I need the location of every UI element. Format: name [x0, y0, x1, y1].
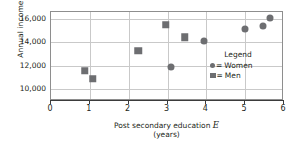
gridline-vertical: [90, 12, 91, 99]
data-point-men: [162, 21, 170, 29]
data-point-women: [242, 25, 249, 32]
x-tick-label: 2: [125, 104, 130, 113]
gridline-horizontal: [51, 89, 282, 90]
y-tick-label: 14,000: [20, 37, 46, 46]
x-tick-label: 3: [164, 104, 169, 113]
legend-equals-women: =: [216, 61, 222, 70]
chart-legend: Legend = Women = Men: [196, 50, 276, 80]
gridline-horizontal: [51, 19, 282, 20]
gridline-vertical: [129, 12, 130, 99]
data-point-women: [167, 64, 174, 71]
data-point-men: [181, 33, 189, 41]
data-point-women: [201, 37, 208, 44]
legend-square-marker-icon: [210, 73, 216, 79]
y-tick-label: 16,000: [20, 14, 46, 23]
gridline-horizontal: [51, 42, 282, 43]
scatter-chart-figure: Annual income Y 10,00012,00014,00016,000…: [0, 0, 292, 150]
x-tick-label: 4: [203, 104, 208, 113]
legend-equals-men: =: [217, 71, 223, 80]
x-tick-label: 6: [280, 104, 285, 113]
x-tick-label: 0: [47, 104, 52, 113]
data-point-men: [135, 47, 143, 55]
data-point-men: [81, 67, 89, 75]
x-tick-label: 5: [242, 104, 247, 113]
y-tick-label: 12,000: [20, 60, 46, 69]
x-axis-title-symbol: E: [213, 120, 219, 130]
data-point-women: [266, 15, 273, 22]
x-axis-title-units: (years): [50, 130, 283, 139]
y-axis-tick-labels: 10,00012,00014,00016,000: [0, 0, 50, 150]
data-point-women: [259, 23, 266, 30]
legend-label-women: Women: [224, 61, 252, 70]
legend-label-men: Men: [225, 71, 241, 80]
legend-item-women: = Women: [196, 61, 276, 70]
legend-title: Legend: [196, 50, 276, 59]
data-point-men: [89, 75, 97, 83]
legend-item-men: = Men: [196, 71, 276, 80]
x-axis-title-text: Post secondary education: [114, 121, 213, 130]
y-tick-label: 10,000: [20, 84, 46, 93]
legend-circle-marker-icon: [210, 63, 215, 68]
x-tick-label: 1: [86, 104, 91, 113]
